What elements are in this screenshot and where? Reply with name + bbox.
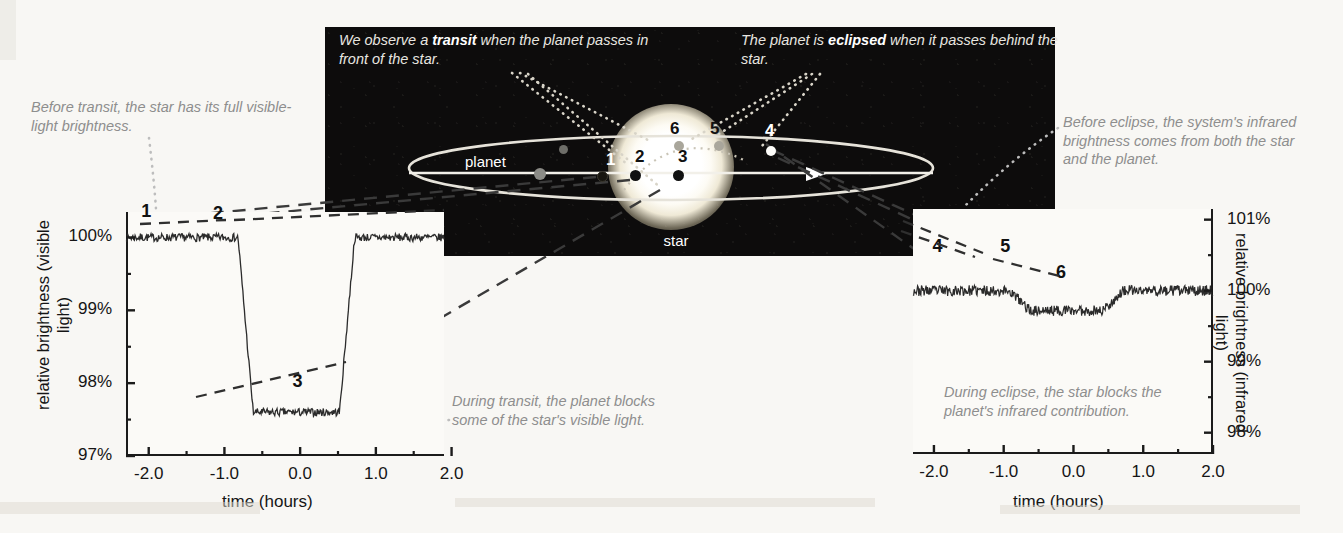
x-tick-label: 0.0 xyxy=(280,464,320,484)
x-tick-label: -1.0 xyxy=(204,464,244,484)
orbit-position-dot-4 xyxy=(766,146,776,156)
scan-artifact xyxy=(0,0,16,60)
scan-artifact xyxy=(1000,505,1300,514)
y-tick-label: 99% xyxy=(1227,351,1261,371)
x-tick-label: 0.0 xyxy=(1053,462,1093,482)
y-tick-label: 100% xyxy=(1227,280,1270,300)
planet-marker xyxy=(534,168,546,180)
orbit-position-5: 5 xyxy=(710,119,719,139)
y-tick-label: 100% xyxy=(69,226,112,246)
orbit-position-6: 6 xyxy=(670,119,679,139)
x-tick-label: 1.0 xyxy=(356,464,396,484)
orbit-position-3: 3 xyxy=(678,147,687,167)
orbit-position-dot-3 xyxy=(673,170,684,181)
x-tick-label: -1.0 xyxy=(984,462,1024,482)
label-connector xyxy=(901,221,1063,277)
eclipse-caption-pre: The planet is xyxy=(741,32,828,48)
transit-y-axis-title: relative brightness (visible light) xyxy=(33,210,73,420)
planet-label: planet xyxy=(465,153,506,170)
orbit-position-dot-2 xyxy=(630,170,641,181)
figure-canvas: We observe a transit when the planet pas… xyxy=(0,0,1343,533)
y-tick-label: 101% xyxy=(1227,209,1270,229)
note-during-eclipse: During eclipse, the star blocks the plan… xyxy=(944,383,1194,420)
y-tick-label: 98% xyxy=(78,372,112,392)
orbit-position-4: 4 xyxy=(765,121,774,141)
eclipse-caption-bold: eclipsed xyxy=(828,32,886,48)
note-before-eclipse: Before eclipse, the system's infrared br… xyxy=(1063,113,1313,169)
x-tick-label: 1.0 xyxy=(1123,462,1163,482)
transit-caption-bold: transit xyxy=(432,32,476,48)
eclipse-y-axis-title: relative brightness (infrared light) xyxy=(1212,228,1252,438)
orbit-position-1: 1 xyxy=(606,150,615,170)
x-tick-label: 2.0 xyxy=(1193,462,1233,482)
y-tick-label: 99% xyxy=(78,299,112,319)
scan-artifact xyxy=(455,498,875,507)
orbit-position-2: 2 xyxy=(635,147,644,167)
x-tick-label: -2.0 xyxy=(914,462,954,482)
star-label: star xyxy=(636,232,716,249)
curve-point-label-1: 1 xyxy=(141,201,151,221)
orbit-position-dot-5 xyxy=(714,141,724,151)
note-before-transit: Before transit, the star has its full vi… xyxy=(31,98,293,135)
orbit-position-dot-1 xyxy=(597,171,608,182)
planet-marker-far xyxy=(559,145,568,154)
light-curve-trace xyxy=(913,285,1213,315)
scan-artifact xyxy=(0,502,260,514)
curve-point-label-5: 5 xyxy=(1000,236,1010,256)
transit-plot-area: 123 xyxy=(126,212,444,456)
transit-chart: 123 100%99%98%97%-2.0-1.00.01.02.0 xyxy=(126,212,444,456)
eclipse-y-axis-title-text: relative brightness (infrared light) xyxy=(1213,233,1251,433)
transit-caption: We observe a transit when the planet pas… xyxy=(339,31,669,69)
x-tick-label: -2.0 xyxy=(129,464,169,484)
transit-caption-pre: We observe a xyxy=(339,32,432,48)
x-tick-label: 2.0 xyxy=(432,464,472,484)
transit-y-axis-title-text: relative brightness (visible light) xyxy=(34,220,72,410)
note-during-transit: During transit, the planet blocks some o… xyxy=(452,392,682,429)
light-curve-trace xyxy=(126,233,444,416)
tick-marks xyxy=(126,237,452,456)
y-tick-label: 98% xyxy=(1227,422,1261,442)
curve-point-label-6: 6 xyxy=(1056,262,1066,282)
y-tick-label: 97% xyxy=(78,445,112,465)
eclipse-caption: The planet is eclipsed when it passes be… xyxy=(741,31,1061,69)
